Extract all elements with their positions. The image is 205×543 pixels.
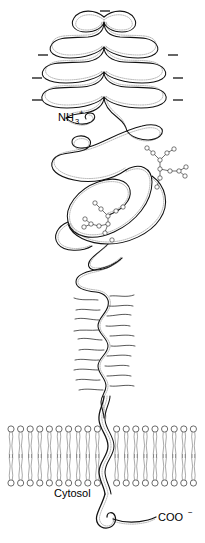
phospholipid bbox=[18, 426, 24, 458]
phospholipid bbox=[162, 454, 168, 486]
cytosol-label: Cytosol bbox=[54, 487, 91, 499]
phospholipid bbox=[162, 426, 168, 458]
phospholipid bbox=[37, 454, 43, 486]
phospholipid bbox=[114, 454, 120, 486]
phospholipid bbox=[85, 426, 91, 458]
phospholipid bbox=[133, 426, 139, 458]
phospholipid bbox=[181, 426, 187, 458]
phospholipid bbox=[27, 454, 33, 486]
phospholipid bbox=[66, 454, 72, 486]
phospholipid bbox=[142, 454, 148, 486]
bristle-stalk-domain bbox=[74, 258, 135, 418]
phospholipid bbox=[85, 454, 91, 486]
phospholipid bbox=[142, 426, 148, 458]
glycoprotein-diagram: NH 3 + bbox=[0, 0, 205, 543]
n-terminus-label: NH bbox=[58, 111, 74, 123]
c-terminus-label-group: COO − bbox=[158, 508, 193, 523]
phospholipid bbox=[66, 426, 72, 458]
hairpin-ribbon-left bbox=[42, 11, 104, 118]
phospholipid bbox=[152, 426, 158, 458]
phospholipid bbox=[75, 426, 81, 458]
phospholipid bbox=[46, 454, 52, 486]
phospholipid bbox=[114, 426, 120, 458]
phospholipid bbox=[123, 426, 129, 458]
phospholipid bbox=[171, 454, 177, 486]
cytoplasmic-tail bbox=[96, 494, 156, 528]
o-linked-bristles-left bbox=[74, 298, 104, 390]
phospholipid bbox=[27, 426, 33, 458]
phospholipid bbox=[8, 454, 14, 486]
tail-extension-to-c-terminus bbox=[113, 517, 156, 522]
hairpin-ribbon-right-shade bbox=[104, 15, 163, 129]
n-terminus-subscript: 3 bbox=[75, 117, 79, 126]
hairpin-ribbon-right bbox=[104, 11, 166, 131]
c-terminus-superscript: − bbox=[188, 508, 193, 517]
loop-lower-exit bbox=[89, 244, 122, 270]
n-linked-glycan-right bbox=[145, 146, 188, 189]
phospholipid bbox=[37, 426, 43, 458]
n-terminus-superscript: + bbox=[79, 108, 84, 117]
loop-lower-exit-shade bbox=[90, 246, 121, 268]
phospholipid bbox=[181, 454, 187, 486]
phospholipid bbox=[190, 426, 196, 458]
loop-middle-ring bbox=[67, 166, 152, 237]
lipid-bilayer bbox=[8, 426, 197, 486]
tm-backbone-edge bbox=[105, 396, 114, 494]
loop-upper-sweep bbox=[52, 125, 163, 182]
phospholipid bbox=[56, 454, 62, 486]
phospholipid bbox=[94, 426, 100, 458]
o-linked-bristles-right bbox=[105, 295, 135, 386]
phospholipid bbox=[75, 454, 81, 486]
tail-hook-shade bbox=[99, 494, 113, 526]
phospholipid bbox=[133, 454, 139, 486]
n-terminus-label-group: NH 3 + bbox=[58, 108, 84, 126]
stalk-backbone-shade bbox=[78, 260, 121, 418]
stalk-backbone bbox=[76, 258, 122, 418]
phospholipid bbox=[152, 454, 158, 486]
phospholipid bbox=[56, 426, 62, 458]
figure-root: NH 3 + bbox=[0, 0, 205, 543]
phospholipid bbox=[190, 454, 196, 486]
phospholipid bbox=[123, 454, 129, 486]
phospholipid bbox=[18, 454, 24, 486]
transmembrane-segment bbox=[99, 396, 114, 494]
phospholipid bbox=[46, 426, 52, 458]
c-terminus-label: COO bbox=[158, 511, 184, 523]
phospholipid bbox=[171, 426, 177, 458]
phospholipid bbox=[8, 426, 14, 458]
